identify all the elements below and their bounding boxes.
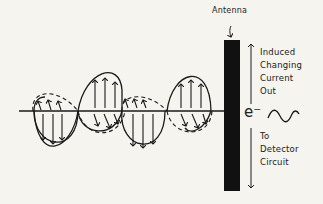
label-line: Circuit: [260, 156, 299, 169]
wave-drawing: [0, 0, 323, 204]
detector-circuit-label: To Detector Circuit: [260, 130, 299, 169]
electron-label: e⁻: [244, 103, 261, 121]
label-line: Detector: [260, 143, 299, 156]
label-line: Induced: [260, 46, 302, 59]
signal-wave-icon: [268, 110, 299, 122]
antenna-label: Antenna: [212, 4, 247, 17]
label-line: Current: [260, 72, 302, 85]
label-line: To: [260, 130, 299, 143]
em-wave-antenna-diagram: Antenna e⁻ Induced Changing Current Out …: [0, 0, 323, 204]
antenna-bar: [224, 40, 240, 191]
induced-current-label: Induced Changing Current Out: [260, 46, 302, 98]
label-line: Out: [260, 85, 302, 98]
label-line: Changing: [260, 59, 302, 72]
